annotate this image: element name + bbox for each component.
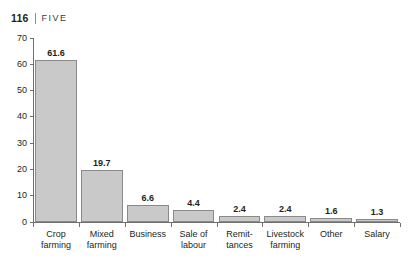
x-axis-category-label: Business xyxy=(122,229,174,240)
bar-group xyxy=(308,38,354,222)
x-axis-tick-mark xyxy=(262,223,263,227)
bar xyxy=(310,218,352,222)
bar xyxy=(173,210,215,222)
x-axis-category-line: Livestock xyxy=(259,229,311,240)
y-axis-tick-label: 10 xyxy=(17,191,30,200)
x-axis-tick-mark xyxy=(125,223,126,227)
y-axis-tick-label: 0 xyxy=(22,218,30,227)
x-axis-category-line: Salary xyxy=(351,229,403,240)
x-axis-category-line: farming xyxy=(259,240,311,251)
bar-value-label: 4.4 xyxy=(171,199,217,208)
bar-value-label: 2.4 xyxy=(217,205,263,214)
y-axis: 010203040506070 xyxy=(0,0,33,265)
bar-value-label: 61.6 xyxy=(33,49,79,58)
x-axis-tick-mark xyxy=(354,223,355,227)
x-axis-category-label: Remit-tances xyxy=(213,229,265,250)
bar-value-label: 19.7 xyxy=(79,159,125,168)
x-axis-tick-mark xyxy=(79,223,80,227)
x-axis-category-line: Crop xyxy=(30,229,82,240)
x-axis-category-label: Cropfarming xyxy=(30,229,82,250)
bar-group xyxy=(217,38,263,222)
bar-group xyxy=(79,38,125,222)
bar xyxy=(35,60,77,222)
x-axis-tick-mark xyxy=(400,223,401,227)
y-axis-tick-label: 60 xyxy=(17,60,30,69)
x-axis-category-label: Livestockfarming xyxy=(259,229,311,250)
bar-group xyxy=(262,38,308,222)
x-axis-category-label: Other xyxy=(305,229,357,240)
bar xyxy=(264,216,306,222)
bar xyxy=(81,170,123,222)
x-axis-tick-mark xyxy=(217,223,218,227)
bar-group xyxy=(171,38,217,222)
chapter-label: FIVE xyxy=(42,13,68,23)
x-axis-category-line: Other xyxy=(305,229,357,240)
bar-value-label: 1.3 xyxy=(354,208,400,217)
bar xyxy=(127,205,169,222)
x-axis-category-line: tances xyxy=(213,240,265,251)
x-axis-tick-mark xyxy=(308,223,309,227)
x-axis-category-label: Sale oflabour xyxy=(168,229,220,250)
y-axis-tick-label: 70 xyxy=(17,34,30,43)
y-axis-tick-label: 50 xyxy=(17,86,30,95)
x-axis-tick-mark xyxy=(171,223,172,227)
y-axis-tick-label: 40 xyxy=(17,112,30,121)
x-axis-category-label: Salary xyxy=(351,229,403,240)
x-axis-category-line: labour xyxy=(168,240,220,251)
x-axis-category-line: farming xyxy=(76,240,128,251)
bar-chart: 116 FIVE 010203040506070 61.619.76.64.42… xyxy=(0,0,410,265)
x-axis-category-label: Mixedfarming xyxy=(76,229,128,250)
bar-value-label: 2.4 xyxy=(262,205,308,214)
bar-value-label: 1.6 xyxy=(308,207,354,216)
bar xyxy=(356,219,398,222)
x-axis-tick-mark xyxy=(33,223,34,227)
bar-value-label: 6.6 xyxy=(125,194,171,203)
bar-group xyxy=(354,38,400,222)
x-axis-category-line: Mixed xyxy=(76,229,128,240)
bar xyxy=(219,216,261,222)
y-axis-tick-label: 20 xyxy=(17,165,30,174)
x-axis-category-line: Sale of xyxy=(168,229,220,240)
running-head-divider xyxy=(35,13,36,24)
x-axis-category-line: Business xyxy=(122,229,174,240)
bar-group xyxy=(33,38,79,222)
y-axis-tick-label: 30 xyxy=(17,139,30,148)
x-axis-category-line: farming xyxy=(30,240,82,251)
plot-area xyxy=(33,38,400,222)
x-axis-category-line: Remit- xyxy=(213,229,265,240)
